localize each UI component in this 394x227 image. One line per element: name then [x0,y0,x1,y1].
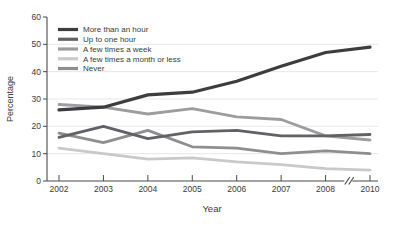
legend-item-a-few-times-a-week: A few times a week [58,45,152,54]
x-tick-label-2003: 2003 [94,184,113,194]
legend-item-a-few-times-a-month-or-less: A few times a month or less [58,55,181,64]
legend-label-a-few-times-a-month-or-less: A few times a month or less [83,55,181,64]
x-axis-title: Year [202,203,221,214]
y-tick-label-60: 60 [32,12,42,22]
x-tick-label-2005: 2005 [183,184,202,194]
frequency-line-chart: 0102030405060200220032004200520062007200… [0,0,394,227]
y-tick-label-30: 30 [32,94,42,104]
y-axis-title: Percentage [5,76,15,122]
y-tick-label-20: 20 [32,121,42,131]
series-layer [59,47,370,170]
legend-label-more-than-an-hour: More than an hour [83,25,149,34]
legend-label-a-few-times-a-week: A few times a week [83,45,152,54]
x-tick-label-2008: 2008 [316,184,335,194]
y-tick-label-40: 40 [32,67,42,77]
x-tick-label-2007: 2007 [272,184,291,194]
x-tick-label-2010: 2010 [361,184,380,194]
legend-label-never: Never [83,64,105,73]
chart-canvas: 0102030405060200220032004200520062007200… [0,0,394,227]
legend-item-more-than-an-hour: More than an hour [58,25,149,34]
y-tick-label-0: 0 [36,176,41,186]
legend: More than an hourUp to one hourA few tim… [58,25,181,73]
y-tick-label-50: 50 [32,39,42,49]
legend-label-up-to-one-hour: Up to one hour [83,35,136,44]
x-tick-label-2006: 2006 [227,184,246,194]
x-tick-label-2004: 2004 [138,184,157,194]
x-tick-label-2002: 2002 [50,184,69,194]
y-tick-label-10: 10 [32,149,42,159]
legend-item-up-to-one-hour: Up to one hour [58,35,136,44]
series-line-up-to-one-hour [59,126,370,138]
